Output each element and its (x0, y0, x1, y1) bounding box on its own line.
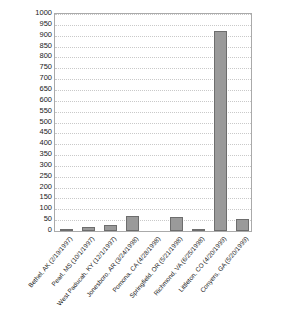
y-axis-tick-label: 300 (4, 161, 52, 169)
y-axis-tick-label: 900 (4, 31, 52, 39)
y-axis-tick-label: 50 (4, 215, 52, 223)
y-axis-tick-labels: 1000950900850800750700650600550500450400… (0, 0, 52, 232)
y-axis-tick-label: 1000 (4, 9, 52, 17)
y-axis-tick-label: 350 (4, 150, 52, 158)
bar-slot (55, 14, 77, 231)
y-axis-tick-label: 450 (4, 128, 52, 136)
y-axis-tick-label: 650 (4, 85, 52, 93)
y-axis-tick-label: 500 (4, 118, 52, 126)
y-axis-tick-label: 200 (4, 183, 52, 191)
y-axis-tick-label: 800 (4, 52, 52, 60)
y-axis-tick-label: 700 (4, 74, 52, 82)
bars-container (55, 14, 251, 231)
y-axis-tick-label: 600 (4, 96, 52, 104)
y-axis-tick-label: 150 (4, 193, 52, 201)
y-axis-tick-label: 850 (4, 42, 52, 50)
y-axis-tick-label: 950 (4, 20, 52, 28)
y-axis-tick-label: 550 (4, 107, 52, 115)
bar-chart: 1000950900850800750700650600550500450400… (0, 0, 282, 316)
y-axis-tick-label: 400 (4, 139, 52, 147)
x-axis-tick-labels: Bethel, AK (2/19/1997)Pearl, MS (10/1/19… (0, 233, 282, 316)
y-axis-tick-label: 250 (4, 172, 52, 180)
y-axis-tick-label: 100 (4, 204, 52, 212)
plot-area (54, 13, 252, 232)
y-axis-tick-label: 750 (4, 63, 52, 71)
bar-slot (77, 14, 99, 231)
